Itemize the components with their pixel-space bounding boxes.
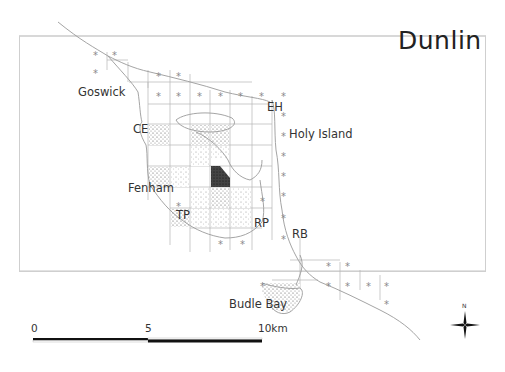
svg-text:*: *: [326, 261, 331, 272]
label-ce: CE: [133, 122, 148, 136]
scale-bar: [33, 338, 262, 343]
svg-text:*: *: [281, 213, 286, 224]
svg-text:*: *: [366, 281, 371, 292]
coastline: [58, 22, 420, 340]
svg-text:*: *: [218, 91, 223, 102]
svg-text:*: *: [240, 239, 245, 250]
svg-text:*: *: [156, 91, 161, 102]
label-tp: TP: [176, 208, 190, 222]
svg-text:*: *: [112, 50, 117, 61]
label-eh: EH: [267, 100, 283, 114]
svg-text:*: *: [238, 91, 243, 102]
label-rb: RB: [292, 227, 308, 241]
label-budle-bay: Budle Bay: [229, 297, 287, 311]
svg-text:*: *: [281, 151, 286, 162]
map-main: ** * ** *** **** **** *** * * ** ** * **…: [0, 0, 505, 372]
svg-text:*: *: [326, 281, 331, 292]
label-rp: RP: [254, 216, 269, 230]
svg-text:*: *: [281, 131, 286, 142]
scale-tick-10km: 10km: [258, 322, 288, 334]
svg-text:*: *: [345, 261, 350, 272]
svg-text:*: *: [93, 68, 98, 79]
svg-text:*: *: [176, 91, 181, 102]
svg-text:*: *: [259, 91, 264, 102]
svg-text:*: *: [156, 71, 161, 82]
svg-text:*: *: [345, 281, 350, 292]
scale-tick-5: 5: [145, 322, 152, 334]
north-arrow-icon: [450, 311, 480, 339]
svg-text:*: *: [260, 281, 265, 292]
neatline-frame: [20, 36, 486, 271]
label-holy-island: Holy Island: [289, 127, 353, 141]
svg-text:*: *: [176, 71, 181, 82]
svg-text:*: *: [281, 171, 286, 182]
scale-tick-0: 0: [31, 322, 38, 334]
map-title: Dunlin: [398, 26, 482, 55]
svg-text:*: *: [281, 191, 286, 202]
svg-text:*: *: [281, 234, 286, 245]
density-shading: [149, 125, 300, 312]
svg-text:*: *: [197, 91, 202, 102]
north-label: N: [462, 302, 467, 309]
svg-text:*: *: [93, 50, 98, 61]
svg-text:*: *: [260, 196, 265, 207]
svg-text:*: *: [218, 239, 223, 250]
label-goswick: Goswick: [78, 85, 126, 99]
svg-text:*: *: [384, 299, 389, 310]
svg-text:*: *: [384, 281, 389, 292]
label-fenham: Fenham: [128, 181, 174, 195]
